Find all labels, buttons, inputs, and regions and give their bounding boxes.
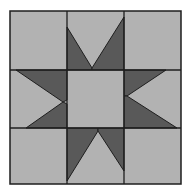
quilt-block-diagram: [0, 0, 189, 192]
quilt-block-base: [10, 11, 181, 184]
